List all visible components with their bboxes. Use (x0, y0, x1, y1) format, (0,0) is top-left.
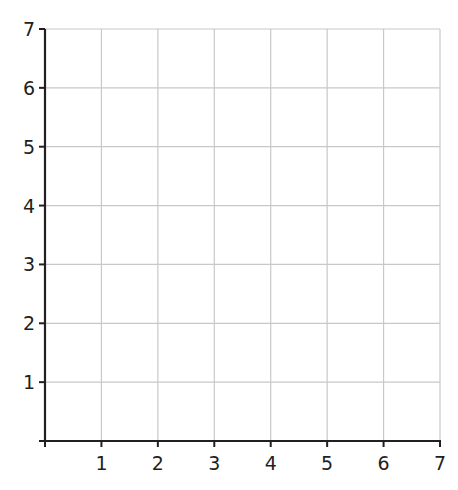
axes (39, 29, 441, 447)
x-tick-label: 1 (95, 452, 107, 474)
x-axis-tick-labels: 1234567 (95, 452, 446, 474)
y-axis-tick-labels: 1234567 (23, 18, 35, 393)
x-tick-label: 4 (265, 452, 277, 474)
gridlines (45, 29, 440, 441)
coordinate-grid-chart: 1234567 1234567 (0, 0, 458, 490)
y-tick-label: 5 (23, 136, 35, 158)
x-tick-label: 2 (152, 452, 164, 474)
y-tick-label: 4 (23, 195, 35, 217)
y-tick-label: 1 (23, 371, 35, 393)
y-tick-label: 2 (23, 312, 35, 334)
x-tick-label: 5 (321, 452, 333, 474)
y-tick-label: 3 (23, 253, 35, 275)
chart-canvas: 1234567 1234567 (0, 0, 458, 490)
y-tick-label: 6 (23, 77, 35, 99)
x-tick-label: 6 (378, 452, 390, 474)
x-tick-label: 7 (434, 452, 446, 474)
y-tick-label: 7 (23, 18, 35, 40)
x-tick-label: 3 (208, 452, 220, 474)
